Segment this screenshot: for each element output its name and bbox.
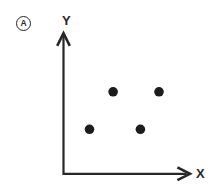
data-point (108, 87, 118, 97)
data-point (85, 125, 95, 135)
axes-lines (64, 36, 187, 174)
data-point (136, 125, 146, 135)
figure-panel: A Y X (0, 0, 218, 190)
data-point (154, 87, 164, 97)
scatter-plot-svg (0, 0, 218, 190)
data-points-group (85, 87, 164, 134)
